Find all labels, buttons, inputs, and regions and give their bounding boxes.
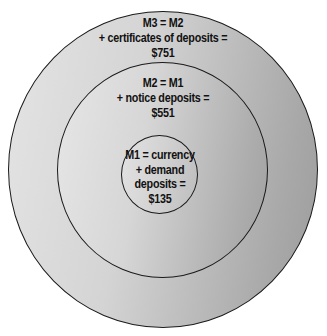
m1-label-line-3: deposits = xyxy=(117,177,203,192)
m1-label-line-1: M1 = currency xyxy=(117,148,203,163)
m3-label: M3 = M2 + certificates of deposits = $75… xyxy=(77,16,249,61)
m1-label: M1 = currency + demand deposits = $135 xyxy=(117,148,203,206)
m1-value: $135 xyxy=(117,192,203,207)
m2-label-line-1: M2 = M1 xyxy=(94,76,232,91)
m3-label-line-1: M3 = M2 xyxy=(77,16,249,31)
m2-value: $551 xyxy=(94,106,232,121)
m3-value: $751 xyxy=(77,46,249,61)
m1-label-line-2: + demand xyxy=(117,163,203,178)
m2-label-line-2: + notice deposits = xyxy=(94,91,232,106)
m2-label: M2 = M1 + notice deposits = $551 xyxy=(94,76,232,121)
m3-label-line-2: + certificates of deposits = xyxy=(77,31,249,46)
